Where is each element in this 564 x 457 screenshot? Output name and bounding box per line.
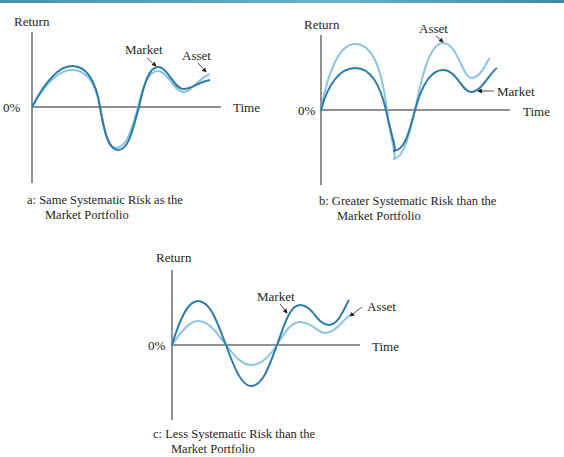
panel-a-y-axis-label: Return [14,14,50,29]
panel-a-caption: a: Same Systematic Risk as the Market Po… [27,193,183,223]
panel-a-market-annotation: Market [125,42,163,57]
panel-c-market-annotation: Market [257,289,295,304]
panel-b-x-axis-label: Time [523,104,550,119]
panel-c-market-arrow [280,304,287,313]
panel-b-asset-arrow [436,36,443,42]
panel-a-asset-line [32,70,210,148]
panel-c-y-axis-label: Return [156,250,192,265]
panel-a-asset-annotation: Asset [182,48,211,63]
panel-a: Return 0% Time Market Asset [3,14,260,183]
panel-b-y-axis-label: Return [304,17,340,32]
panel-b-caption-prefix: b: [319,194,329,208]
panel-b-caption-line2: Market Portfolio [319,209,496,224]
panel-c-x-axis-label: Time [372,339,399,354]
panel-c-zero-label: 0% [148,338,166,353]
panel-a-caption-prefix: a: [27,193,36,207]
panel-b-caption-line1: Greater Systematic Risk than the [332,194,497,208]
panel-b-market-annotation: Market [497,84,535,99]
panel-a-market-line [32,66,210,150]
panel-c-asset-annotation: Asset [367,299,396,314]
panel-c-caption-line2: Market Portfolio [153,442,315,457]
panel-c: Return 0% Time Market Asset [148,250,399,420]
panel-a-caption-line2: Market Portfolio [27,208,183,223]
panel-c-caption-prefix: c: [153,427,162,441]
panel-a-asset-arrow [198,63,206,72]
panel-b-caption: b: Greater Systematic Risk than the Mark… [319,194,496,224]
panel-a-x-axis-label: Time [233,100,260,115]
panel-c-caption-line1: Less Systematic Risk than the [165,427,315,441]
panel-c-caption: c: Less Systematic Risk than the Market … [153,427,315,457]
panel-c-market-line [172,300,349,386]
panel-a-zero-label: 0% [3,100,21,115]
panel-a-market-arrow [147,58,156,66]
panel-b-zero-label: 0% [298,103,316,118]
panel-b: Return 0% Time Asset Market [298,17,550,185]
panel-b-asset-annotation: Asset [419,21,448,36]
panel-c-asset-arrow [350,307,362,316]
panel-a-caption-line1: Same Systematic Risk as the [39,193,183,207]
figure-canvas: Return 0% Time Market Asset Return 0% Ti… [0,0,564,457]
